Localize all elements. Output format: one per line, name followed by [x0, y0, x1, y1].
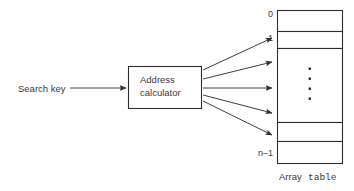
ellipsis-dot-3 — [309, 88, 311, 90]
mapping-arrow-5 — [203, 101, 272, 135]
table-cell-penultimate — [278, 123, 343, 142]
mapping-arrow-2 — [203, 62, 272, 79]
mapping-arrow-4 — [203, 95, 272, 113]
address-calculator-line2: calculator — [140, 87, 181, 98]
hashing-address-calculator-diagram: Search key Address calculator 0 1 n–1 Ar… — [0, 0, 354, 191]
table-cell-middle — [278, 49, 343, 123]
table-cell-1 — [278, 32, 343, 49]
table-index-1: 1 — [268, 33, 273, 43]
table-cell-0 — [278, 11, 343, 32]
table-index-0: 0 — [268, 9, 273, 19]
ellipsis-dot-1 — [309, 68, 311, 70]
address-calculator-line1: Address — [140, 74, 175, 85]
ellipsis-dot-2 — [309, 78, 311, 80]
table-index-last: n–1 — [258, 148, 273, 158]
search-key-label: Search key — [18, 83, 66, 94]
array-caption-word: Array — [279, 171, 302, 182]
array-caption-code: table — [308, 172, 337, 183]
mapping-arrow-1 — [203, 38, 272, 70]
table-cell-last — [278, 142, 343, 164]
diagram-canvas: Search key Address calculator 0 1 n–1 Ar… — [0, 0, 354, 191]
ellipsis-dot-4 — [309, 98, 311, 100]
